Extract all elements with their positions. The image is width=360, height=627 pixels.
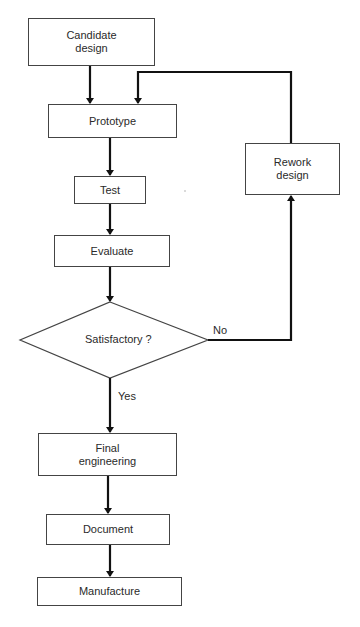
edge-label-no: No xyxy=(213,324,227,336)
edge-label-yes: Yes xyxy=(118,390,136,402)
node-label: engineering xyxy=(79,455,137,468)
decision-label: Satisfactory ? xyxy=(85,333,152,345)
node-label: Test xyxy=(100,184,120,197)
node-label: Prototype xyxy=(89,115,136,128)
node-evaluate: Evaluate xyxy=(54,235,170,267)
node-document: Document xyxy=(46,514,170,545)
node-label: design xyxy=(276,169,308,182)
node-manufacture: Manufacture xyxy=(37,577,182,606)
node-final-engineering: Final engineering xyxy=(38,433,177,476)
node-test: Test xyxy=(74,176,146,204)
stray-dot xyxy=(184,190,185,191)
node-label: Manufacture xyxy=(79,585,140,598)
node-label: Final xyxy=(96,442,120,455)
node-prototype: Prototype xyxy=(48,104,177,138)
node-candidate-design: Candidate design xyxy=(28,18,155,66)
node-label: Candidate xyxy=(66,29,116,42)
node-label: Rework xyxy=(274,156,311,169)
arrow-no-to-rework xyxy=(208,196,291,340)
node-label: Evaluate xyxy=(91,245,134,258)
node-label: design xyxy=(75,42,107,55)
node-label: Document xyxy=(83,523,133,536)
node-rework-design: Rework design xyxy=(245,143,340,195)
